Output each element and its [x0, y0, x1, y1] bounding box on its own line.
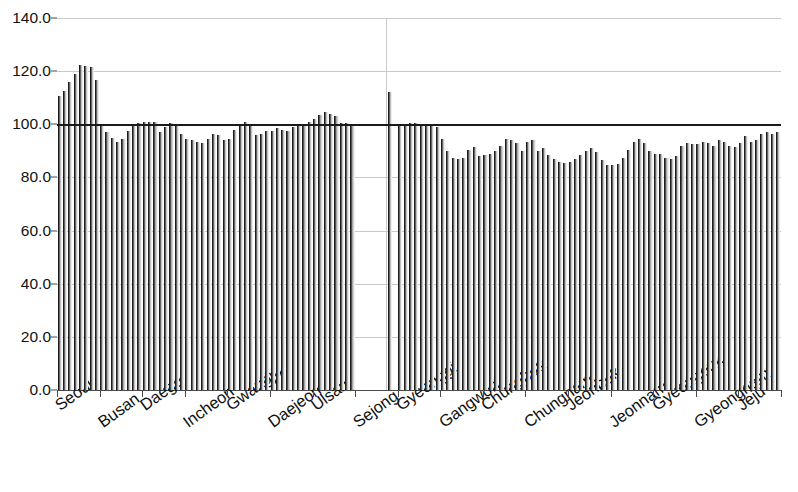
bar	[718, 140, 722, 390]
y-tick-label: 140.0	[0, 10, 51, 26]
bar	[585, 151, 589, 390]
bar	[329, 114, 333, 390]
bar	[233, 130, 237, 390]
bar	[702, 142, 706, 390]
bar	[74, 74, 78, 390]
y-axis: 0.020.040.060.080.0100.0120.0140.0	[0, 18, 51, 390]
bar	[664, 158, 668, 391]
bar	[340, 123, 344, 390]
bar	[436, 127, 440, 390]
bar	[95, 80, 99, 390]
x-axis-label-busan: Busan	[95, 390, 142, 431]
bar	[249, 126, 253, 390]
bar	[739, 143, 743, 390]
bar	[744, 136, 748, 390]
bar	[409, 123, 413, 390]
bar	[606, 165, 610, 390]
bar	[766, 132, 770, 390]
y-tick-label: 0.0	[0, 382, 51, 398]
bar	[414, 123, 418, 390]
x-tick-mark	[738, 390, 739, 397]
x-tick-mark	[313, 390, 314, 397]
bar	[430, 126, 434, 390]
bar	[441, 139, 445, 390]
bar	[558, 162, 562, 391]
bar	[207, 139, 211, 390]
bar	[404, 124, 408, 390]
bar	[345, 123, 349, 390]
bar	[175, 126, 179, 390]
bar	[132, 126, 136, 390]
bar	[670, 159, 674, 390]
y-tick-label: 100.0	[0, 117, 51, 133]
bar	[489, 154, 493, 390]
x-tick-mark	[483, 390, 484, 397]
x-axis-label-sejong: Sejong	[350, 387, 401, 430]
bar	[324, 112, 328, 390]
bar	[425, 126, 429, 390]
bar	[223, 140, 227, 390]
bar	[164, 127, 168, 390]
bar	[318, 115, 322, 390]
bar	[755, 140, 759, 390]
bar	[217, 135, 221, 390]
bar	[648, 151, 652, 390]
bar	[388, 92, 392, 390]
bar	[286, 131, 290, 390]
bar	[260, 134, 264, 390]
bar	[100, 126, 104, 390]
bar	[239, 126, 243, 390]
bar	[79, 65, 83, 391]
bar	[654, 154, 658, 390]
bar	[116, 142, 120, 390]
bar	[734, 147, 738, 390]
y-tick-label: 60.0	[0, 223, 51, 239]
bar	[68, 82, 72, 390]
x-tick-mark	[355, 390, 356, 397]
x-tick-mark	[57, 390, 58, 397]
bar	[143, 122, 147, 390]
bar	[569, 162, 573, 391]
bar	[196, 142, 200, 390]
x-tick-mark	[525, 390, 526, 397]
bar	[271, 131, 275, 390]
reference-line-100	[57, 124, 781, 125]
bar	[521, 151, 525, 390]
bar	[255, 135, 259, 390]
bar	[691, 144, 695, 390]
bar	[121, 139, 125, 390]
bar	[707, 143, 711, 390]
bar	[281, 130, 285, 390]
x-tick-mark	[270, 390, 271, 397]
bar	[105, 132, 109, 390]
bar	[446, 151, 450, 390]
x-tick-mark	[227, 390, 228, 397]
bar	[212, 134, 216, 390]
bar	[499, 146, 503, 390]
bar	[505, 139, 509, 390]
bar	[137, 123, 141, 390]
x-tick-mark	[611, 390, 612, 397]
bar	[494, 151, 498, 390]
bar	[478, 156, 482, 390]
x-tick-mark	[440, 390, 441, 397]
bar	[537, 151, 541, 390]
bar	[515, 143, 519, 390]
bar-chart: 0.020.040.060.080.0100.0120.0140.0 Seoul…	[0, 0, 798, 492]
bar	[63, 91, 67, 390]
bar	[601, 160, 605, 390]
x-tick-mark	[100, 390, 101, 397]
x-tick-mark	[568, 390, 569, 397]
bar	[313, 119, 317, 390]
bar	[84, 66, 88, 390]
bar	[680, 146, 684, 390]
bar	[302, 124, 306, 390]
bar	[563, 163, 567, 390]
y-tick-label: 20.0	[0, 329, 51, 345]
bar	[633, 142, 637, 390]
bar	[542, 148, 546, 390]
bar	[526, 142, 530, 390]
bar	[579, 155, 583, 390]
bar	[420, 124, 424, 390]
bar	[457, 159, 461, 390]
